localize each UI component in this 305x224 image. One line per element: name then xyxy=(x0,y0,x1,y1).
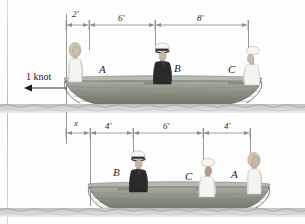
person-c-label-top: C xyxy=(228,63,235,75)
current-label: 1 knot xyxy=(26,71,51,82)
dimension-label-bottom-4: 4' xyxy=(224,121,230,131)
person-a-label-top: A xyxy=(99,63,106,75)
dimension-label-top-3: 8' xyxy=(197,13,203,23)
person-b-top xyxy=(148,40,176,85)
dimension-label-bottom-2: 4' xyxy=(105,121,111,131)
water-top xyxy=(0,100,305,114)
dimension-label-bottom-3: 6' xyxy=(163,121,169,131)
person-b-label-bottom: B xyxy=(113,166,120,178)
person-a-label-bottom: A xyxy=(231,168,238,180)
person-c-top xyxy=(240,44,266,86)
person-c-label-bottom: C xyxy=(185,170,192,182)
person-a-bottom xyxy=(242,152,266,196)
person-b-bottom xyxy=(124,148,152,193)
person-b-label-top: B xyxy=(174,62,181,74)
figure-canvas: 2' 6' 8' 1 knot xyxy=(0,0,305,224)
dimension-label-bottom-1: x xyxy=(74,118,78,128)
water-bottom xyxy=(0,204,305,218)
dimension-label-top-1: 2' xyxy=(72,9,78,19)
person-c-bottom xyxy=(195,156,221,198)
dimension-label-top-2: 6' xyxy=(118,13,124,23)
dimension-line-top xyxy=(60,19,256,31)
person-a-top xyxy=(63,42,87,84)
